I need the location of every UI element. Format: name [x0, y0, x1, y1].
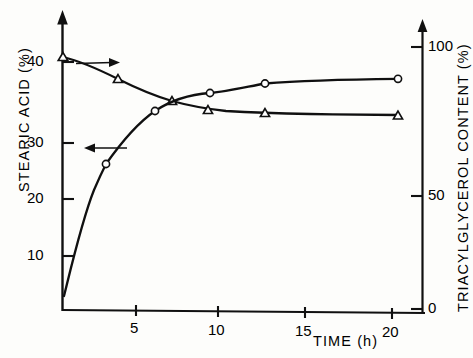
bottom-tick-label-5: 5	[130, 319, 138, 336]
chart-figure: 40 30 20 10 100 50 0 5 10 15 20 STEARIC …	[0, 0, 473, 358]
bottom-tick-label-15: 15	[295, 322, 312, 339]
left-axis-title: STEARIC ACID (%)	[16, 47, 32, 192]
marker-circle	[151, 107, 158, 114]
marker-triangle	[260, 109, 269, 117]
marker-circle	[102, 160, 109, 167]
right-tick-label-100: 100	[428, 37, 453, 54]
series-stearic-acid-line	[63, 57, 398, 115]
marker-triangle	[113, 75, 122, 83]
left-tick-label-10: 10	[27, 246, 44, 263]
arrow-right-shaft	[76, 63, 112, 64]
left-axis-ticks	[63, 62, 75, 256]
marker-circle	[261, 80, 268, 87]
axis-lines	[57, 10, 427, 313]
marker-triangle	[203, 106, 212, 114]
marker-circle	[206, 89, 213, 96]
bottom-tick-label-10: 10	[208, 321, 225, 338]
right-axis-arrowhead	[418, 19, 428, 32]
left-axis-arrowhead	[57, 10, 68, 25]
right-tick-label-0: 0	[428, 299, 436, 316]
right-axis-ticks	[411, 47, 423, 309]
arrow-right-head	[109, 58, 120, 67]
bottom-axis-title: TIME (h)	[313, 333, 378, 349]
arrow-left-head	[84, 144, 95, 153]
chart-canvas	[0, 0, 473, 358]
bottom-tick-label-20: 20	[382, 323, 399, 340]
series-triacylglycerol-markers	[102, 75, 401, 167]
right-axis-title: TRIACYLGLYCEROL CONTENT (%)	[455, 43, 471, 312]
bottom-axis-line	[63, 310, 426, 313]
marker-triangle	[393, 111, 402, 119]
marker-triangle	[58, 53, 68, 61]
marker-circle	[394, 75, 401, 82]
series-triacylglycerol	[64, 75, 402, 296]
right-tick-label-50: 50	[428, 186, 445, 203]
